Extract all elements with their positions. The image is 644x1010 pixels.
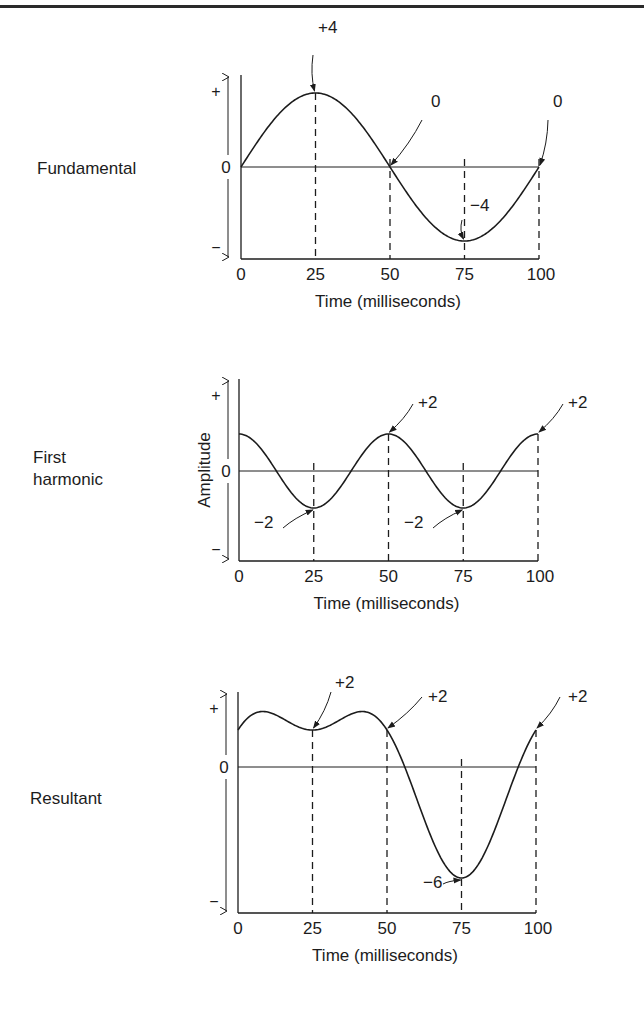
y-tick-zero: 0 (219, 758, 228, 777)
annotation-label: 0 (431, 92, 440, 111)
y-tick-minus: − (211, 541, 220, 558)
x-axis-label: Time (milliseconds) (312, 946, 458, 965)
annotation-label: +4 (318, 18, 337, 37)
annotation-pointer-arrow (391, 120, 422, 165)
y-tick-zero: 0 (221, 462, 230, 481)
chart-fundamental: +0−0255075100Time (milliseconds)+40−40 (211, 18, 562, 311)
annotation-pointer-arrow (443, 880, 461, 884)
y-tick-plus: + (211, 83, 220, 100)
annotation-label: +2 (428, 687, 447, 706)
x-tick-label: 75 (452, 919, 471, 938)
annotation-label: −2 (254, 513, 273, 532)
x-tick-label: 25 (303, 919, 322, 938)
y-tick-minus: − (211, 239, 220, 256)
x-axis-label: Time (milliseconds) (315, 292, 461, 311)
annotation-pointer-arrow (461, 220, 464, 239)
annotation-label: 0 (553, 92, 562, 111)
x-tick-label: 100 (524, 919, 552, 938)
x-tick-label: 50 (378, 919, 397, 938)
y-tick-plus: + (211, 387, 220, 404)
x-tick-label: 50 (381, 265, 400, 284)
x-tick-label: 25 (304, 567, 323, 586)
x-tick-label: 75 (454, 567, 473, 586)
x-tick-label: 50 (379, 567, 398, 586)
annotation-label: −4 (470, 196, 489, 215)
annotation-pointer-arrow (433, 510, 462, 528)
annotation-pointer-arrow (390, 404, 414, 432)
annotation-pointer-arrow (388, 697, 422, 728)
annotation-label: +2 (335, 673, 354, 692)
annotation-pointer-arrow (540, 120, 548, 165)
y-tick-minus: − (209, 893, 218, 910)
annotation-pointer-arrow (312, 55, 315, 91)
x-tick-label: 0 (233, 919, 242, 938)
x-tick-label: 25 (306, 265, 325, 284)
x-tick-label: 100 (527, 265, 555, 284)
annotation-label: −6 (423, 873, 442, 892)
annotation-label: +2 (568, 687, 587, 706)
annotation-pointer-arrow (539, 404, 563, 432)
x-tick-label: 75 (455, 265, 474, 284)
annotation-pointer-arrow (314, 692, 332, 728)
annotation-pointer-arrow (283, 510, 313, 528)
x-tick-label: 0 (236, 265, 245, 284)
x-tick-label: 100 (526, 567, 554, 586)
chart-resultant: +0−0255075100Time (milliseconds)+2+2−6+2 (209, 673, 587, 965)
x-tick-label: 0 (234, 567, 243, 586)
annotation-label: +2 (418, 393, 437, 412)
annotation-label: −2 (404, 513, 423, 532)
x-axis-label: Time (milliseconds) (314, 594, 460, 613)
amplitude-axis-label: Amplitude (195, 432, 214, 508)
y-tick-plus: + (209, 700, 218, 717)
y-tick-zero: 0 (221, 158, 230, 177)
waveform-figure: +0−0255075100Time (milliseconds)+40−40 +… (0, 0, 644, 1010)
chart-first-harmonic: +0−0255075100Time (milliseconds)−2+2−2+2 (211, 379, 587, 613)
annotation-pointer-arrow (537, 697, 560, 728)
annotation-label: +2 (568, 393, 587, 412)
